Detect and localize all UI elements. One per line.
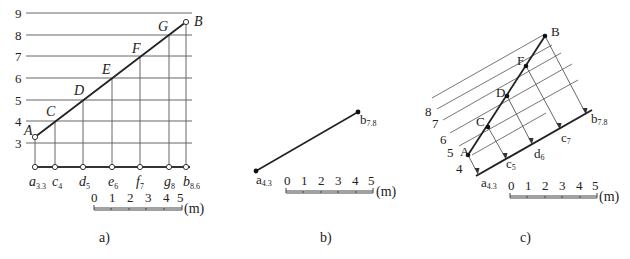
level-label: 4 [456,161,463,176]
proj-sub: 3.3 [36,182,46,191]
label-D: D [73,83,84,98]
label-C: C [476,114,485,129]
proj-sub: 7.8 [598,118,608,127]
svg-text:a4.3: a4.3 [256,172,272,188]
projector-lines [468,36,586,174]
line-ab [35,22,186,137]
label-E: E [101,62,111,77]
svg-text:f7: f7 [136,174,144,191]
proj-sub: 7 [567,137,571,146]
level-label: 8 [425,104,432,119]
scale-unit: (m) [184,201,205,217]
svg-text:c5: c5 [506,156,516,172]
scale-tick: 2 [127,190,134,205]
proj-sub: 8.6 [190,182,200,191]
scale-bar: 0 1 2 3 4 5 (m) [91,190,205,217]
level-label: 5 [447,145,454,160]
level-label: 4 [15,114,22,129]
label-F: F [517,53,524,68]
caption-a: a) [99,230,110,246]
svg-text:b7.8: b7.8 [360,112,377,128]
level-label: 5 [15,93,22,108]
scale-tick: 1 [525,178,532,193]
proj-sub: 7 [140,182,144,191]
svg-text:c4: c4 [52,174,62,191]
projection-labels: a3.3 c4 d5 e6 f7 g8 b8.6 [29,174,200,191]
projector-lines [35,22,186,167]
point-a [32,134,37,139]
scale-unit: (m) [376,184,397,200]
label-A: A [460,144,470,159]
scale-tick: 1 [301,173,308,188]
label-b-sub: 7.8 [367,119,377,128]
scale-unit: (m) [599,189,620,205]
level-label: 7 [432,116,439,131]
panel-a: 3 4 5 6 7 8 9 [15,6,205,246]
svg-text:d6: d6 [534,146,545,162]
scale-tick: 0 [91,190,98,205]
level-labels: 3 4 5 6 7 8 9 [15,6,22,151]
proj-sub: 5 [86,182,90,191]
svg-text:b8.6: b8.6 [183,174,200,191]
scale-tick: 5 [592,178,599,193]
scale-bar: 0 1 2 3 4 5 (m) [508,178,620,205]
scale-tick: 2 [318,173,325,188]
scale-bar: 0 1 2 3 4 5 (m) [284,173,397,200]
level-label: 8 [15,28,22,43]
proj-sub: 4 [58,182,62,191]
level-label: 6 [15,71,22,86]
scale-tick: 4 [576,178,583,193]
svg-text:c7: c7 [561,130,571,146]
svg-text:a3.3: a3.3 [29,174,46,191]
proj-sub: 5 [512,163,516,172]
level-label: 9 [15,6,22,21]
scale-tick: 2 [542,178,549,193]
scale-tick: 0 [284,173,291,188]
proj-sub: 4.3 [487,182,497,191]
point-names: A C D E F G B [23,14,203,138]
scale-tick: 3 [335,173,342,188]
proj-sub: 8 [171,182,175,191]
panel-b: a4.3 b7.8 0 1 2 3 4 5 (m) b) [254,110,397,246]
label-B: B [194,14,203,29]
label-A: A [23,123,33,138]
label-D: D [496,85,505,100]
svg-text:a4.3: a4.3 [481,175,497,191]
caption-c: c) [520,230,531,246]
scale-tick: 4 [352,173,359,188]
scale-tick: 1 [109,190,116,205]
scale-tick: 3 [145,190,152,205]
svg-text:d5: d5 [79,174,90,191]
line-ab-projection [256,112,358,171]
point-b [183,19,188,24]
svg-text:b7.8: b7.8 [591,111,608,127]
scale-tick: 0 [508,178,515,193]
level-label: 3 [15,136,22,151]
proj-label: b [183,174,190,189]
label-C: C [46,104,56,119]
panel-c: 4 5 6 7 8 A C D F B a4.3 c5 d6 c7 b7.8 0… [425,24,620,246]
svg-text:g8: g8 [164,174,175,191]
proj-label: a [29,174,36,189]
proj-label: g [164,174,171,189]
label-F: F [131,41,141,56]
label-G: G [158,19,168,34]
scale-tick: 4 [163,190,170,205]
proj-sub: 6 [541,153,545,162]
scale-tick: 5 [177,190,184,205]
label-a-sub: 4.3 [262,179,272,188]
svg-text:e6: e6 [108,174,118,191]
level-label: 7 [15,49,22,64]
label-B: B [551,24,560,39]
scale-tick: 5 [368,173,375,188]
scale-tick: 3 [559,178,566,193]
level-label: 6 [440,132,447,147]
caption-b: b) [320,230,332,246]
level-labels: 4 5 6 7 8 [425,104,463,176]
